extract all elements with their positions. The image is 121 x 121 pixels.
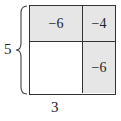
- cell-bottom-left: [30, 42, 83, 93]
- cell-top-right: −4: [83, 6, 115, 42]
- area-grid: −6 −4 −6: [29, 5, 116, 95]
- left-dimension-label: 5: [4, 41, 12, 58]
- cell-bottom-right: −6: [83, 42, 115, 93]
- left-brace-icon: [14, 5, 28, 95]
- bottom-dimension-label: 3: [51, 99, 59, 116]
- cell-top-left: −6: [30, 6, 83, 42]
